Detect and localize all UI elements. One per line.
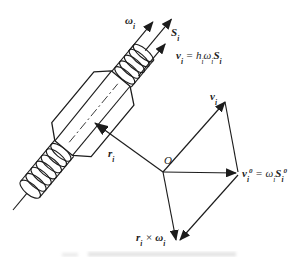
velocity-arrow bbox=[163, 102, 225, 172]
origin-label: O bbox=[164, 154, 172, 166]
moment-vector-arrow bbox=[163, 172, 236, 173]
screw-axis-arrow bbox=[145, 19, 171, 51]
cross-product-label: ri × ωi bbox=[136, 231, 166, 248]
parallelogram-side-bottom bbox=[180, 175, 238, 240]
cropped-caption-remnant bbox=[62, 252, 236, 257]
screw-joint-kinematics-svg: ωi Si vi = hiωiSi ri O vi vi0 = ωiSi0 ri… bbox=[0, 0, 294, 259]
screw-axis-label: Si bbox=[171, 26, 180, 43]
angular-velocity-label: ωi bbox=[125, 14, 136, 31]
moment-vector-label: vi0 = ωiSi0 bbox=[242, 167, 288, 184]
position-vector-label: ri bbox=[108, 147, 115, 164]
kinematic-diagram-figure: ωi Si vi = hiωiSi ri O vi vi0 = ωiSi0 ri… bbox=[0, 0, 294, 259]
pitch-velocity-label: vi = hiωiSi bbox=[176, 49, 223, 66]
screw-body bbox=[0, 3, 191, 227]
axis-centerline-stub bbox=[13, 193, 27, 210]
pitch-velocity-arrow bbox=[138, 44, 165, 76]
cross-product-arrow bbox=[163, 172, 176, 240]
velocity-label: vi bbox=[210, 90, 218, 107]
parallelogram-side-right bbox=[225, 102, 238, 172]
position-vector-arrow bbox=[95, 123, 163, 172]
